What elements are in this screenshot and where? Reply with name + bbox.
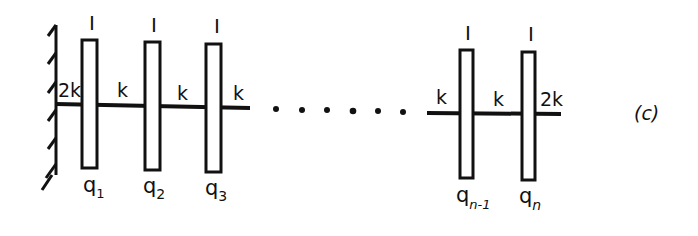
inertia-label: I	[214, 14, 220, 38]
spring-label: k	[233, 82, 244, 104]
inertia-label: I	[528, 22, 534, 46]
coord-label: q1	[83, 173, 105, 201]
spring-label: 2k	[540, 88, 563, 110]
coord-label: q3	[205, 176, 227, 204]
disk-n	[522, 52, 535, 180]
figure-tag: (c)	[634, 102, 659, 124]
inertia-label: I	[151, 13, 157, 37]
disk-2	[145, 42, 160, 170]
disk-n-1	[460, 50, 473, 178]
spring-label: 2k	[58, 79, 81, 101]
spring-label: k	[117, 79, 128, 101]
inertia-label: I	[89, 11, 95, 35]
spring-label: k	[493, 88, 504, 110]
disk-1	[82, 40, 97, 168]
spring-label: k	[436, 86, 447, 108]
coord-label: qn-1	[456, 183, 491, 212]
diagram-svg: I I I I I 2k k k k k k 2k q1 q2 q3 qn-1 …	[0, 0, 698, 236]
coord-label: q2	[143, 174, 165, 202]
inertia-label: I	[465, 21, 471, 45]
disk-3	[206, 44, 221, 172]
torsional-chain-diagram: I I I I I 2k k k k k k 2k q1 q2 q3 qn-1 …	[0, 0, 698, 236]
shaft-right	[427, 113, 561, 114]
fixed-wall	[42, 25, 56, 190]
ellipsis-dots	[273, 106, 406, 115]
spring-label: k	[177, 82, 188, 104]
coord-label: qn	[519, 184, 541, 213]
